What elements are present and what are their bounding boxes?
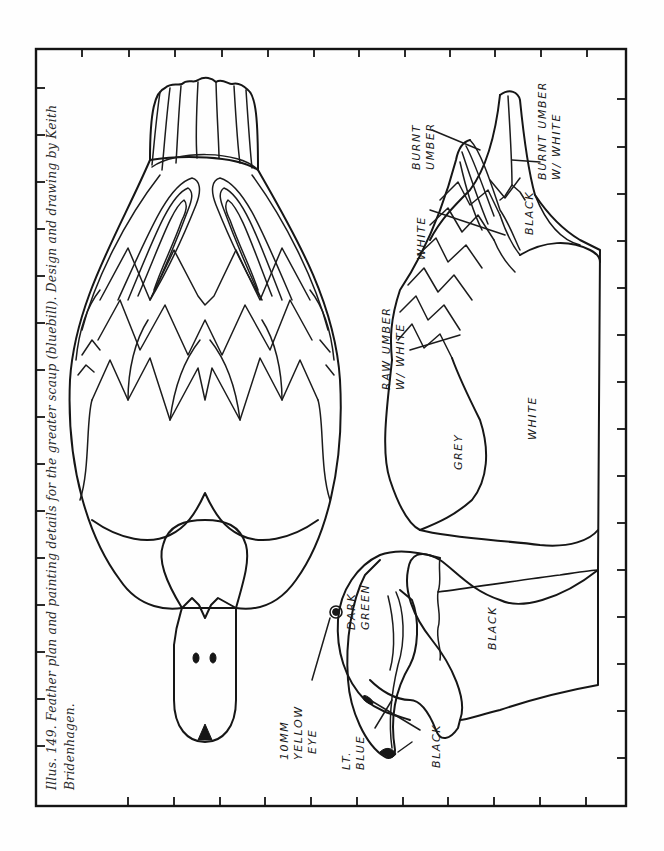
caption-line-2: Bridenhagen. — [63, 703, 77, 791]
svg-text:BURNT: BURNT — [410, 124, 423, 170]
bill-side — [347, 560, 417, 758]
caption-line-1: Illus. 149. Feather plan and painting de… — [45, 105, 59, 791]
label-black-tail: BLACK — [523, 191, 536, 235]
eye-pupil — [333, 609, 340, 616]
label-black-bill: BLACK — [430, 724, 443, 768]
label-dark-green: DARK GREEN — [345, 584, 372, 630]
svg-text:GREEN: GREEN — [359, 584, 372, 630]
svg-text:W/ WHITE: W/ WHITE — [550, 113, 563, 180]
bill-top — [174, 598, 236, 742]
label-lt-blue: LT. BLUE — [340, 735, 367, 770]
svg-text:BLUE: BLUE — [354, 735, 367, 770]
svg-text:EYE: EYE — [306, 729, 319, 754]
nostril-right — [210, 653, 216, 663]
book-page: Illus. 149. Feather plan and painting de… — [0, 0, 664, 851]
svg-text:GREY: GREY — [452, 434, 465, 470]
back-edge — [92, 493, 318, 540]
svg-text:DARK: DARK — [345, 593, 358, 630]
label-grey: GREY — [452, 434, 465, 470]
svg-text:W/ WHITE: W/ WHITE — [394, 323, 407, 390]
side-view-duck — [312, 91, 600, 758]
svg-text:BLACK: BLACK — [523, 191, 536, 235]
svg-text:10MM: 10MM — [278, 721, 291, 760]
svg-text:LT.: LT. — [340, 751, 353, 770]
label-burnt-umber-white: BURNT UMBER W/ WHITE — [536, 81, 563, 180]
label-yellow-eye: 10MM YELLOW EYE — [278, 705, 319, 760]
bill-nail-top — [198, 724, 212, 740]
illustration: Illus. 149. Feather plan and painting de… — [0, 0, 664, 851]
side-outline-bottom — [370, 91, 600, 738]
svg-text:WHITE: WHITE — [526, 396, 539, 440]
label-white-wing: WHITE — [415, 216, 428, 260]
svg-text:BURNT UMBER: BURNT UMBER — [536, 81, 549, 180]
label-burnt-umber: BURNT UMBER — [410, 122, 437, 170]
svg-text:WHITE: WHITE — [415, 216, 428, 260]
body-outline — [70, 157, 341, 609]
svg-text:RAW UMBER: RAW UMBER — [380, 307, 393, 390]
svg-text:BLACK: BLACK — [486, 606, 499, 650]
top-view-duck — [70, 78, 341, 742]
label-white-side: WHITE — [526, 396, 539, 440]
svg-text:YELLOW: YELLOW — [292, 705, 305, 760]
svg-text:BLACK: BLACK — [430, 724, 443, 768]
label-black-breast: BLACK — [486, 606, 499, 650]
svg-text:UMBER: UMBER — [424, 122, 437, 170]
neck-ring-line — [438, 558, 441, 660]
nostril-left — [193, 653, 199, 663]
